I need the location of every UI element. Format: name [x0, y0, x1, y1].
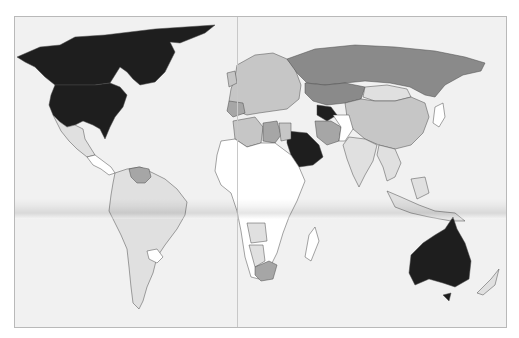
country-new-zealand	[477, 269, 499, 295]
country-madagascar	[305, 227, 319, 261]
country-tasmania	[443, 293, 451, 301]
fold-line-vertical	[237, 17, 238, 328]
fold-line-horizontal	[15, 199, 507, 219]
country-turkmenistan	[317, 105, 337, 121]
country-spain	[227, 101, 245, 117]
country-australia	[409, 217, 471, 287]
country-iran	[315, 121, 341, 145]
country-egypt	[279, 123, 291, 141]
country-japan	[433, 103, 445, 127]
region-central-america	[87, 155, 115, 175]
world-map	[14, 16, 507, 328]
country-canada-greenland	[17, 25, 215, 85]
country-borneo	[411, 177, 429, 199]
region-southeast-asia	[377, 145, 401, 181]
country-libya	[263, 121, 281, 143]
map-canvas	[15, 17, 507, 328]
region-south-america	[109, 167, 187, 309]
country-india	[343, 137, 377, 187]
